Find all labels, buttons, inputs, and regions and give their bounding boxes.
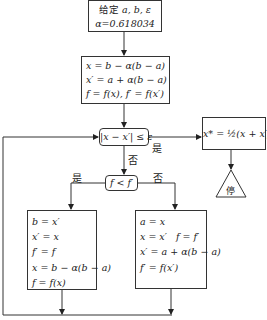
left-line: b = x′ xyxy=(32,214,92,229)
result-formula: x* = ½(x + x′) xyxy=(203,128,267,139)
given-vars: a, b, ε xyxy=(122,4,151,15)
init-line: x′ = a + α(b − a) xyxy=(86,73,165,87)
left-branch-box: b = x′ x′ = x f′ = f x = b − α(b − a) f … xyxy=(27,210,97,290)
start-box: 给定 a, b, ε α=0.618034 xyxy=(88,0,162,32)
left-line: x′ = x xyxy=(32,229,92,244)
right-line: x′ = a + α(b − a) xyxy=(140,244,202,259)
init-box: x = b − α(b − a) x′ = a + α(b − a) f = f… xyxy=(81,56,170,104)
result-box: x* = ½(x + x′) xyxy=(202,117,266,150)
left-line: f′ = f xyxy=(32,244,92,259)
compare-no-label: 否 xyxy=(153,170,163,185)
check-condition: |x − x′| ≤ ε xyxy=(100,131,152,142)
convergence-check: |x − x′| ≤ ε xyxy=(99,128,149,146)
right-line: f′ = f(x′) xyxy=(140,260,202,275)
right-line: x = x′ f = f′ xyxy=(140,229,202,244)
right-line: a = x xyxy=(140,214,202,229)
check-no-label: 否 xyxy=(128,152,138,167)
left-line: f = f(x) xyxy=(32,275,92,290)
compare-yes-label: 是 xyxy=(72,170,82,185)
compare-condition: f < f′ xyxy=(110,177,133,188)
init-line: x = b − α(b − a) xyxy=(86,59,165,73)
right-branch-box: a = x x = x′ f = f′ x′ = a + α(b − a) f′… xyxy=(135,210,207,289)
compare-box: f < f′ xyxy=(105,175,138,191)
check-yes-label: 是 xyxy=(152,140,162,155)
stop-label: 停 xyxy=(226,184,235,197)
init-line: f = f(x), f′ = f(x′) xyxy=(86,87,165,101)
left-line: x = b − α(b − a) xyxy=(32,260,92,275)
alpha-value: α=0.618034 xyxy=(89,17,161,31)
given-label: 给定 xyxy=(99,4,119,15)
